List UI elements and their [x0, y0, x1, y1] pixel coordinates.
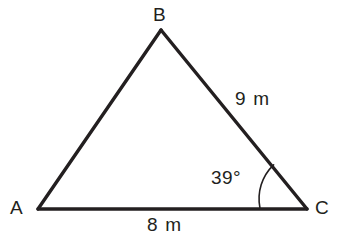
triangle-figure: B A C 9 m 8 m 39° [0, 0, 343, 242]
angle-measure-label-c: 39° [211, 168, 241, 187]
vertex-label-b: B [153, 5, 166, 24]
vertex-label-c: C [315, 198, 329, 217]
triangle-drawing [0, 0, 343, 242]
side-length-label-ac: 8 m [147, 215, 182, 234]
angle-arc-c [259, 165, 274, 209]
side-ab-line [38, 30, 161, 209]
vertex-label-a: A [10, 198, 23, 217]
side-length-label-bc: 9 m [235, 89, 270, 108]
